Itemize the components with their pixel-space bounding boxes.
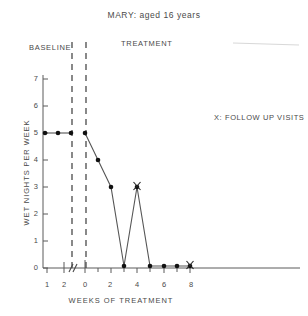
- chart-plot-area: [0, 0, 308, 316]
- decorative-rule: [233, 43, 299, 45]
- chart-root: MARY: aged 16 years BASELINE TREATMENT X…: [0, 0, 308, 316]
- y-tick-marks: [43, 79, 48, 268]
- treatment-series-markers: [83, 131, 193, 269]
- follow-up-x-markers: [134, 182, 194, 269]
- baseline-series-markers: [43, 131, 74, 136]
- treatment-series-line: [85, 133, 190, 266]
